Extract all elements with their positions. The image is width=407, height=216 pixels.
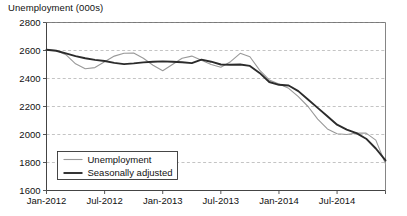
x-axis-ticks-group: Jan-2012Jul-2012Jan-2013Jul-2013Jan-2014… xyxy=(27,191,386,207)
x-tick-label: Jan-2012 xyxy=(27,195,67,206)
legend-label: Seasonally adjusted xyxy=(88,167,173,178)
y-tick-label: 2600 xyxy=(19,45,40,56)
x-tick-label: Jan-2014 xyxy=(259,195,299,206)
x-tick-label: Jul-2012 xyxy=(86,195,122,206)
chart-plot-area: 1600180020002200240026002800 Jan-2012Jul… xyxy=(0,0,407,216)
y-tick-label: 2200 xyxy=(19,101,40,112)
chart-legend: UnemploymentSeasonally adjusted xyxy=(58,152,178,180)
x-tick-label: Jul-2014 xyxy=(319,195,355,206)
y-tick-label: 2400 xyxy=(19,73,40,84)
y-tick-label: 2800 xyxy=(19,17,40,28)
gridlines-group xyxy=(47,23,386,163)
x-tick-label: Jul-2013 xyxy=(203,195,239,206)
x-tick-label: Jan-2013 xyxy=(143,195,183,206)
y-axis-ticks-group: 1600180020002200240026002800 xyxy=(19,17,46,196)
y-tick-label: 1800 xyxy=(19,157,40,168)
y-tick-label: 1600 xyxy=(19,185,40,196)
legend-label: Unemployment xyxy=(88,154,152,165)
unemployment-chart: Unemployment (000s) 16001800200022002400… xyxy=(0,0,407,216)
y-tick-label: 2000 xyxy=(19,129,40,140)
